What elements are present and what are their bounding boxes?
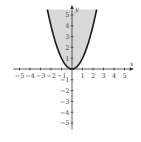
y-tick-label: −5 bbox=[60, 119, 70, 127]
y-tick-label: 5 bbox=[65, 11, 69, 19]
x-tick-label: 2 bbox=[91, 72, 95, 80]
x-tick-label: 4 bbox=[112, 72, 116, 80]
parabola-region-plot: −5−4−3−2−112345−5−4−3−2−112345xy bbox=[0, 0, 141, 142]
x-tick-label: −4 bbox=[25, 72, 35, 80]
y-tick-label: −3 bbox=[60, 98, 70, 106]
y-tick-label: 3 bbox=[65, 33, 69, 41]
y-tick-label: −4 bbox=[60, 109, 70, 117]
x-tick-label: 1 bbox=[80, 72, 84, 80]
y-axis-arrow-icon bbox=[70, 5, 74, 9]
y-tick-label: −1 bbox=[60, 76, 70, 84]
x-axis-label: x bbox=[130, 60, 134, 68]
x-tick-label: 3 bbox=[101, 72, 105, 80]
y-tick-label: −2 bbox=[60, 87, 70, 95]
x-tick-label: 5 bbox=[122, 72, 126, 80]
x-tick-label: −5 bbox=[15, 72, 25, 80]
y-tick-label: 1 bbox=[65, 55, 69, 63]
y-tick-label: 4 bbox=[65, 22, 69, 30]
y-axis-label: y bbox=[74, 5, 79, 13]
x-tick-label: −2 bbox=[46, 72, 56, 80]
y-tick-label: 2 bbox=[65, 44, 69, 52]
x-tick-label: −3 bbox=[36, 72, 46, 80]
